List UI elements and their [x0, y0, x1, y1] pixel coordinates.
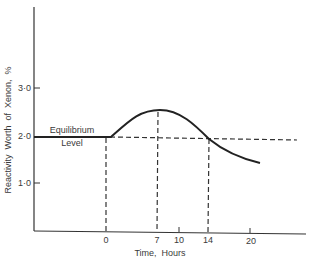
x-tick-7: 7	[154, 235, 159, 245]
y-tick-3: 3·0	[18, 83, 31, 93]
vline-t7	[157, 112, 158, 231]
x-tick-20: 20	[246, 236, 256, 246]
xenon-reactivity-chart: 3·0 2·0 1·0 0 7 10 14 20 Equilibrium Lev…	[0, 0, 311, 265]
x-tick-10: 10	[174, 235, 184, 245]
equilibrium-label: Equilibrium	[50, 125, 95, 135]
level-label: Level	[61, 138, 83, 148]
reference-lines	[106, 112, 297, 232]
vline-t14	[208, 139, 209, 232]
x-axis-label: Time, Hours	[134, 248, 186, 258]
x-tick-0: 0	[103, 235, 108, 245]
x-axis	[34, 231, 306, 234]
y-tick-2: 2·0	[18, 131, 31, 141]
x-ticks: 0 7 10 14 20	[103, 227, 256, 246]
y-axis-label: Reactivity Worth of Xenon, %	[3, 67, 13, 194]
y-ticks: 3·0 2·0 1·0	[18, 83, 40, 188]
equilibrium-dashed-line	[110, 137, 297, 140]
y-tick-1: 1·0	[18, 178, 31, 188]
x-tick-14: 14	[203, 235, 213, 245]
xenon-curve	[34, 110, 260, 163]
